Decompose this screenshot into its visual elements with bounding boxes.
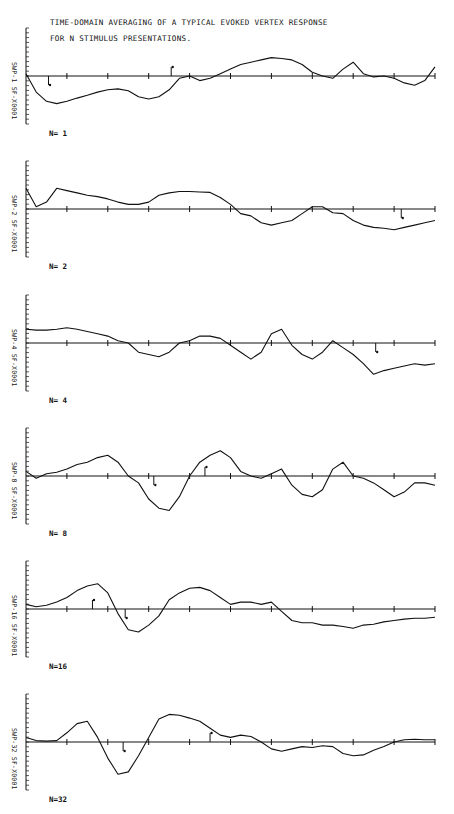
n-label: N= 2: [49, 262, 67, 271]
evoked-response-plots: [0, 0, 454, 814]
axis-label: SWP-2 SF-X0001: [10, 195, 18, 253]
axis-label: SWP-4 SF-X0001: [10, 329, 18, 387]
panel-5: [26, 561, 435, 657]
axis-label: SWP-8 SF-X0001: [10, 462, 18, 520]
marker-dot: [93, 599, 95, 601]
marker-dot: [402, 217, 404, 219]
marker-dot: [210, 732, 212, 734]
axis-label: SWP-32 SF-X0001: [10, 728, 18, 790]
n-label: N= 4: [49, 396, 67, 405]
marker-dot: [205, 466, 207, 468]
marker-dot: [171, 66, 173, 68]
marker-dot: [376, 351, 378, 353]
response-trace: [26, 451, 435, 511]
marker-dot: [49, 84, 51, 86]
panel-2: [26, 161, 435, 257]
panel-1: [26, 28, 435, 124]
response-trace: [26, 328, 435, 375]
response-trace: [26, 58, 435, 104]
axis-label: SWP-16 SF-X0001: [10, 595, 18, 657]
axis-label: SWP-1 SF-X0001: [10, 62, 18, 120]
panel-3: [26, 295, 435, 391]
panel-6: [26, 694, 435, 790]
marker-dot: [154, 484, 156, 486]
n-label: N= 1: [49, 129, 67, 138]
n-label: N= 8: [49, 529, 67, 538]
n-label: N=16: [49, 662, 67, 671]
n-label: N=32: [49, 795, 67, 804]
marker-dot: [125, 617, 127, 619]
panel-4: [26, 428, 435, 524]
marker-dot: [123, 750, 125, 752]
